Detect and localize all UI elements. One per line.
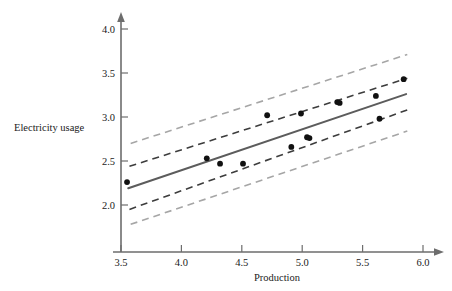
data-point xyxy=(124,179,130,185)
prediction-band-upper xyxy=(131,55,408,144)
y-tick-label: 3.0 xyxy=(102,112,115,123)
x-tick-label: 6.0 xyxy=(416,257,429,268)
data-point xyxy=(298,111,304,117)
y-tick-label: 4.0 xyxy=(102,24,115,35)
x-tick-label: 4.0 xyxy=(175,257,188,268)
y-tick-label: 3.5 xyxy=(102,68,115,79)
data-point xyxy=(401,76,407,82)
x-axis-ticks: 3.54.04.55.05.56.0 xyxy=(114,245,429,268)
regression-fit-line xyxy=(128,94,406,188)
confidence-band-upper xyxy=(129,78,407,166)
data-point xyxy=(307,135,313,141)
x-axis-title: Production xyxy=(254,272,301,283)
data-point xyxy=(264,112,270,118)
data-point xyxy=(204,155,210,161)
x-tick-label: 5.5 xyxy=(356,257,369,268)
y-axis-ticks: 2.02.53.03.54.0 xyxy=(102,24,128,211)
confidence-band-lower xyxy=(129,110,407,209)
data-point xyxy=(217,161,223,167)
data-point xyxy=(377,116,383,122)
data-point xyxy=(337,100,343,106)
data-point xyxy=(240,161,246,167)
regression-line-group xyxy=(128,94,406,188)
y-axis-arrowhead xyxy=(117,12,125,22)
plot-canvas: 3.54.04.55.05.56.0 2.02.53.03.54.0 Produ… xyxy=(0,0,452,291)
x-tick-label: 5.0 xyxy=(296,257,309,268)
x-axis-arrowhead xyxy=(434,248,444,256)
axes-group xyxy=(113,12,444,256)
interval-bands-group xyxy=(129,55,407,225)
data-point xyxy=(373,93,379,99)
prediction-band-lower xyxy=(131,131,408,224)
y-tick-label: 2.0 xyxy=(102,200,115,211)
y-axis-title: Electricity usage xyxy=(14,122,85,133)
y-tick-label: 2.5 xyxy=(102,156,115,167)
scatter-plot-figure: 3.54.04.55.05.56.0 2.02.53.03.54.0 Produ… xyxy=(0,0,452,291)
x-tick-label: 4.5 xyxy=(235,257,248,268)
x-tick-label: 3.5 xyxy=(114,257,127,268)
data-point xyxy=(288,144,294,150)
